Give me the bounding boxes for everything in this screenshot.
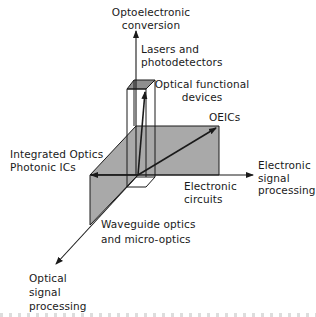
cutoff-caption-edge bbox=[0, 313, 316, 317]
label-line: Integrated Optics bbox=[10, 148, 103, 161]
integrated-optics-label: Integrated Optics Photonic ICs bbox=[10, 148, 103, 174]
label-line: devices bbox=[152, 91, 252, 104]
label-line: Lasers and bbox=[141, 43, 223, 56]
optical-functional-label: Optical functional devices bbox=[152, 78, 252, 103]
label-line: Optical functional bbox=[152, 78, 252, 91]
horizontal-axis-label: Electronic signal processing bbox=[258, 159, 316, 197]
label-line: Electronic bbox=[258, 159, 316, 172]
diagonal-axis-label: Optical signal processing bbox=[29, 271, 87, 313]
label-line: and micro-optics bbox=[101, 232, 196, 247]
vertical-axis-label: Optoelectronic conversion bbox=[96, 6, 206, 31]
oeics-label: OEICs bbox=[209, 111, 240, 124]
electronic-circuits-label: Electronic circuits bbox=[184, 180, 237, 205]
label-line: processing bbox=[258, 184, 316, 197]
label-line: conversion bbox=[96, 19, 206, 32]
label-line: Electronic bbox=[184, 180, 237, 193]
label-line: Optical bbox=[29, 271, 87, 285]
label-line: Photonic ICs bbox=[10, 161, 103, 174]
label-line: Waveguide optics bbox=[101, 217, 196, 232]
label-line: signal bbox=[29, 285, 87, 299]
label-line: photodetectors bbox=[141, 56, 223, 69]
lasers-label: Lasers and photodetectors bbox=[141, 43, 223, 68]
label-line: circuits bbox=[184, 193, 237, 206]
label-line: Optoelectronic bbox=[96, 6, 206, 19]
label-line: processing bbox=[29, 299, 87, 313]
label-line: signal bbox=[258, 172, 316, 185]
waveguide-label: Waveguide optics and micro-optics bbox=[101, 217, 196, 247]
